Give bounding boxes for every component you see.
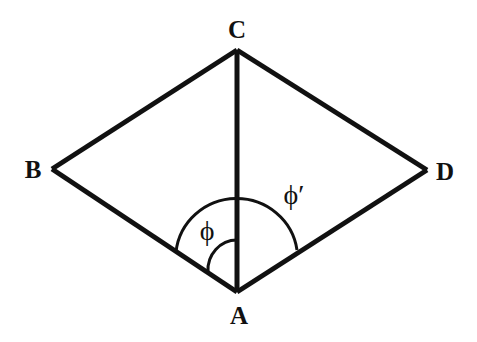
quadrilateral-edges (52, 50, 427, 292)
vertex-label-c: C (228, 16, 246, 43)
edge-bc (52, 50, 237, 169)
angle-label-phi-prime: ϕ′ (284, 179, 305, 210)
vertex-label-b: B (25, 156, 42, 183)
rhombus-diagram: C B D A ϕ ϕ′ (0, 0, 477, 342)
vertex-label-d: D (436, 158, 454, 185)
edge-da (237, 170, 427, 292)
vertex-label-a: A (230, 302, 248, 329)
angle-label-phi: ϕ (200, 215, 215, 246)
edge-cd (237, 50, 427, 170)
